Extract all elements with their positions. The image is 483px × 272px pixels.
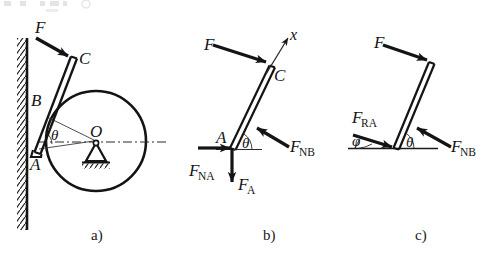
label-force-fnb-sub-b: NB bbox=[299, 146, 315, 158]
label-angle-theta-c: θ bbox=[406, 134, 414, 150]
label-force-fa-sub-b: A bbox=[247, 184, 256, 196]
mechanics-figure: F C B A O θ bbox=[0, 0, 483, 272]
caption-a: a) bbox=[91, 227, 103, 244]
force-fnb-arrow-b bbox=[257, 128, 289, 147]
force-f-arrow-b bbox=[213, 45, 266, 62]
figure-canvas: F C B A O θ bbox=[0, 0, 483, 272]
label-point-b-a: B bbox=[31, 91, 42, 110]
label-force-fnb-b: F NB bbox=[289, 137, 315, 158]
label-point-c-a: C bbox=[79, 49, 91, 68]
label-point-a-a: A bbox=[29, 155, 41, 174]
label-point-a-b: A bbox=[215, 128, 227, 147]
label-force-fra-sub-c: RA bbox=[361, 117, 378, 129]
top-crop-artifact bbox=[4, 0, 90, 12]
label-force-f-c: F bbox=[373, 33, 385, 52]
force-f-arrow-c bbox=[383, 45, 427, 60]
force-fnb-arrow-c bbox=[417, 128, 451, 147]
label-force-fa-b: F A bbox=[237, 175, 256, 196]
rod-bar-c bbox=[394, 62, 435, 150]
pin-support bbox=[82, 140, 110, 168]
force-f-arrow-a bbox=[36, 38, 68, 56]
caption-c: c) bbox=[415, 227, 427, 244]
panel-c-group: F F RA F NB φ θ bbox=[348, 33, 476, 158]
label-axis-x-b: x bbox=[289, 26, 297, 43]
caption-b: b) bbox=[263, 227, 276, 244]
label-force-fnb-sub-c: NB bbox=[460, 146, 476, 158]
label-force-f-a: F bbox=[34, 18, 46, 37]
label-force-f-b: F bbox=[203, 35, 215, 54]
wall-hatching bbox=[17, 38, 27, 230]
label-angle-phi-c: φ bbox=[352, 133, 360, 149]
label-point-c-b: C bbox=[274, 66, 286, 85]
label-force-fnb-c: F NB bbox=[450, 137, 476, 158]
panel-a-group: F C B A O θ bbox=[17, 18, 166, 230]
label-angle-theta-a: θ bbox=[51, 127, 59, 143]
rod-bar-b bbox=[230, 66, 275, 151]
captions-group: a) b) c) bbox=[91, 227, 427, 244]
label-force-fna-b: F NA bbox=[188, 161, 215, 182]
label-angle-theta-b: θ bbox=[242, 135, 250, 151]
panel-b-group: F x C A θ F NB F NA F A bbox=[188, 26, 315, 196]
label-point-o-a: O bbox=[90, 122, 102, 141]
label-force-fna-sub-b: NA bbox=[198, 170, 215, 182]
label-force-fra-c: F RA bbox=[351, 108, 378, 129]
